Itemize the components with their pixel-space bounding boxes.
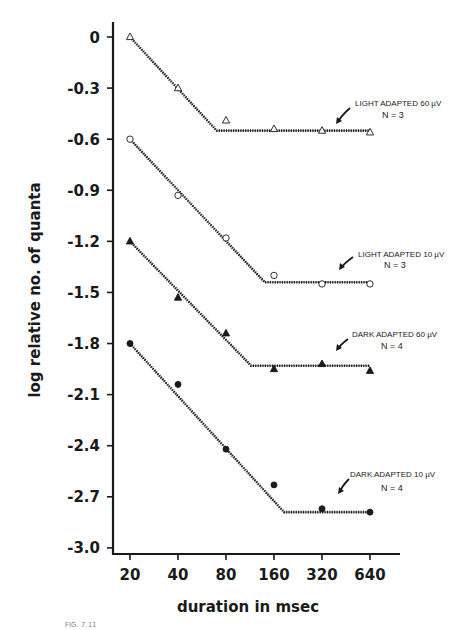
y-tick-label: 0 [90, 29, 100, 47]
data-point-circle [175, 192, 181, 198]
fit-line [130, 241, 370, 365]
data-point-circle [175, 381, 181, 387]
data-point-circle [367, 281, 373, 287]
figure-caption: FIG. 7.11 [65, 621, 97, 629]
fit-line-core [130, 37, 370, 131]
series-layer [126, 33, 373, 515]
annotation-label: DARK ADAPTED 10 µV [350, 470, 436, 479]
data-point-circle [127, 341, 133, 347]
series-open-circle [127, 136, 373, 287]
annotation-label: LIGHT ADAPTED 10 µV [358, 250, 445, 259]
data-point-triangle [366, 128, 373, 135]
data-point-triangle [126, 237, 133, 244]
y-tick-label: -0.9 [67, 182, 100, 200]
data-point-triangle [174, 294, 181, 301]
x-tick-label: 320 [306, 566, 337, 584]
annotation-n: N = 3 [382, 110, 404, 120]
y-tick-label: -1.2 [67, 233, 100, 251]
y-tick-label: -0.3 [67, 80, 100, 98]
fit-line [130, 139, 370, 282]
data-point-circle [319, 506, 325, 512]
chart: 0-0.3-0.6-0.9-1.2-1.5-1.8-2.1-2.4-2.7-3.… [0, 0, 459, 630]
x-tick-label: 80 [216, 566, 237, 584]
y-tick-label: -2.4 [67, 437, 100, 455]
data-point-triangle [222, 329, 229, 336]
data-point-triangle [318, 360, 325, 367]
y-tick-label: -0.6 [67, 131, 100, 149]
y-tick-label: -2.1 [67, 386, 100, 404]
fit-line-core [130, 139, 370, 282]
annotation-layer: LIGHT ADAPTED 60 µVN = 3LIGHT ADAPTED 10… [336, 99, 445, 494]
data-point-circle [271, 482, 277, 488]
x-tick-label: 20 [120, 566, 141, 584]
annotation-label: DARK ADAPTED 60 µV [352, 330, 438, 339]
fit-line [130, 344, 370, 513]
series-annotation: LIGHT ADAPTED 60 µVN = 3 [336, 99, 442, 124]
series-annotation: DARK ADAPTED 60 µVN = 4 [336, 330, 438, 351]
annotation-label: LIGHT ADAPTED 60 µV [355, 99, 442, 108]
data-point-circle [127, 136, 133, 142]
series-annotation: LIGHT ADAPTED 10 µVN = 3 [339, 250, 445, 270]
y-ticks: 0-0.3-0.6-0.9-1.2-1.5-1.8-2.1-2.4-2.7-3.… [67, 29, 113, 558]
x-tick-label: 40 [168, 566, 189, 584]
data-point-triangle [270, 125, 277, 132]
annotation-n: N = 3 [384, 260, 406, 270]
x-tick-label: 160 [258, 566, 289, 584]
x-ticks: 204080160320640 [120, 554, 386, 584]
data-point-circle [367, 509, 373, 515]
series-annotation: DARK ADAPTED 10 µVN = 4 [338, 470, 436, 494]
fit-line [130, 37, 370, 131]
data-point-circle [223, 446, 229, 452]
y-tick-label: -1.5 [67, 284, 100, 302]
data-point-circle [319, 281, 325, 287]
fit-line-core [130, 344, 370, 513]
series-filled-triangle [126, 237, 373, 373]
annotation-n: N = 4 [381, 341, 403, 351]
data-point-circle [223, 235, 229, 241]
y-tick-label: -3.0 [67, 539, 100, 557]
x-axis-label: duration in msec [177, 598, 319, 616]
y-tick-label: -2.7 [67, 488, 100, 506]
data-point-circle [271, 272, 277, 278]
data-point-triangle [126, 33, 133, 40]
x-tick-label: 640 [354, 566, 385, 584]
fit-line-core [130, 241, 370, 365]
series-filled-circle [127, 341, 373, 516]
series-open-triangle [126, 33, 373, 135]
data-point-triangle [222, 116, 229, 123]
y-tick-label: -1.8 [67, 335, 100, 353]
data-point-triangle [366, 367, 373, 374]
annotation-n: N = 4 [381, 483, 403, 493]
y-axis-label: log relative no. of quanta [26, 182, 44, 397]
